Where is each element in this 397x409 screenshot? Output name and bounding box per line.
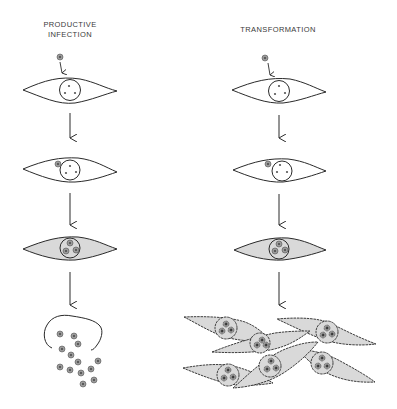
nucleus (60, 160, 80, 180)
cell-stage-2 (233, 159, 326, 182)
virion-icon (57, 54, 63, 60)
attach-arrow-icon (60, 62, 62, 73)
cell-stage-1 (23, 78, 117, 103)
nucleus (60, 80, 81, 101)
cell-stage-2 (23, 158, 117, 182)
lysed-cell-released-virions (44, 315, 102, 387)
transformed-cell-cluster (183, 317, 376, 388)
virion-icon (55, 161, 61, 167)
attach-arrow-icon (268, 63, 270, 75)
cell-membrane-fragment (44, 315, 102, 350)
cell-stage-3-infected (23, 237, 117, 260)
transformation-column (183, 55, 376, 388)
virion-icon (265, 161, 271, 167)
cell-stage-1 (232, 78, 326, 103)
diagram-canvas (0, 0, 397, 409)
cell-stage-3-integrated (234, 238, 326, 260)
virion-icon (262, 55, 268, 61)
nucleus (269, 81, 290, 102)
nucleus (272, 161, 292, 181)
productive-column (23, 54, 117, 387)
